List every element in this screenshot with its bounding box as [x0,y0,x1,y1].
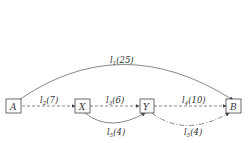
node-x: X [75,99,90,113]
edge-label-l3: l3(6) [106,95,124,106]
svg-text:Y: Y [143,102,150,112]
edge-label-l5-left: l5(4) [107,127,125,138]
edge-x-y-bottom [85,113,145,123]
svg-text:B: B [229,102,237,112]
edge-label-l1: l1(25) [110,55,134,66]
edge-label-l5-right: l5(4) [184,127,202,138]
svg-text:A: A [9,102,17,112]
edge-label-l2: l2(7) [40,95,58,106]
node-b: B [226,99,241,113]
node-a: A [6,99,21,113]
edge-y-b-bottom [152,113,229,126]
network-diagram: A X Y B l1(25) l2(7) l3(6) l4(10) l5(4) … [0,0,249,143]
svg-text:X: X [78,102,86,112]
edge-label-l4: l4(10) [182,95,206,106]
node-y: Y [140,99,154,113]
